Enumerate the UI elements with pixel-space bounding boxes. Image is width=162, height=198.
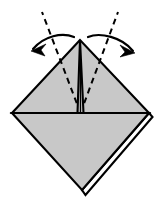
- origami-diagram-container: Origami fold step diagram: [0, 0, 162, 198]
- origami-fold-diagram: Origami fold step diagram: [0, 0, 162, 198]
